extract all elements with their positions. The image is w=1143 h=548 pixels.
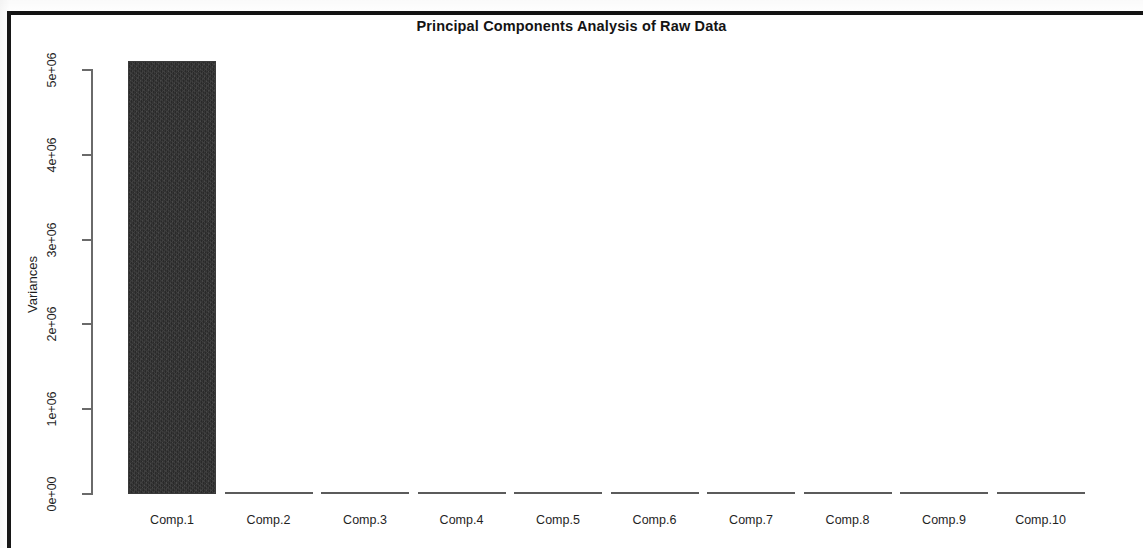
y-axis-tick bbox=[82, 154, 92, 156]
y-axis-title-text: Variances bbox=[25, 229, 40, 341]
y-axis-tick-label-text: 5e+06 bbox=[45, 35, 59, 105]
chart-title: Principal Components Analysis of Raw Dat… bbox=[0, 18, 1143, 34]
y-axis-tick-label: 4e+06 bbox=[28, 120, 76, 134]
y-axis-tick bbox=[82, 323, 92, 325]
y-axis-tick-label-text: 3e+06 bbox=[45, 205, 59, 275]
bar-comp-1 bbox=[128, 61, 216, 494]
bar-comp-2 bbox=[225, 492, 313, 494]
y-axis-tick bbox=[82, 239, 92, 241]
bar-comp-10 bbox=[997, 492, 1085, 494]
screeplot-figure: Principal Components Analysis of Raw Dat… bbox=[0, 0, 1143, 548]
y-axis-tick bbox=[82, 493, 93, 495]
y-axis-title: Variances bbox=[22, 225, 42, 345]
x-axis-tick-label: Comp.10 bbox=[983, 513, 1099, 527]
y-axis-tick-label: 2e+06 bbox=[28, 289, 76, 303]
y-axis-tick-label-text: 0e+00 bbox=[45, 459, 59, 529]
bar-comp-6 bbox=[611, 492, 699, 494]
y-axis-tick-label: 5e+06 bbox=[28, 35, 76, 49]
y-axis-tick-label: 0e+00 bbox=[28, 459, 76, 473]
y-axis-tick bbox=[82, 69, 93, 71]
y-axis-tick bbox=[82, 408, 92, 410]
y-axis-tick-label: 1e+06 bbox=[28, 374, 76, 388]
bar-comp-4 bbox=[418, 492, 506, 494]
bar-comp-7 bbox=[707, 492, 795, 494]
scanned-page: Principal Components Analysis of Raw Dat… bbox=[0, 0, 1143, 548]
bar-comp-8 bbox=[804, 492, 892, 494]
y-axis-tick-label: 3e+06 bbox=[28, 205, 76, 219]
bar-comp-9 bbox=[900, 492, 988, 494]
bar-comp-5 bbox=[514, 492, 602, 494]
y-axis-tick-label-text: 1e+06 bbox=[45, 374, 59, 444]
y-axis-tick-label-text: 2e+06 bbox=[45, 289, 59, 359]
y-axis-line bbox=[91, 70, 93, 495]
bar-comp-3 bbox=[321, 492, 409, 494]
y-axis-tick-label-text: 4e+06 bbox=[45, 120, 59, 190]
